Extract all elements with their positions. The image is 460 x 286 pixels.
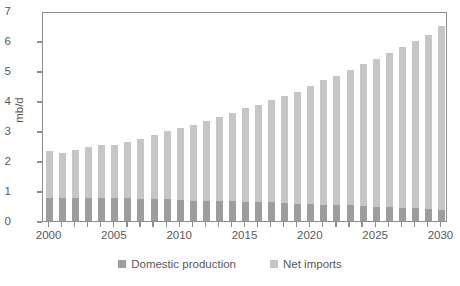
bar-segment-net-imports <box>203 121 210 201</box>
x-tick-mark <box>244 222 245 227</box>
bar-segment-domestic-production <box>333 205 340 221</box>
bar-segment-net-imports <box>320 80 327 204</box>
bar-segment-net-imports <box>59 153 66 197</box>
y-tick-label: 1 <box>0 186 11 198</box>
bar-segment-domestic-production <box>46 198 53 221</box>
x-tick-mark <box>113 222 114 227</box>
bar-segment-domestic-production <box>242 202 249 222</box>
bar-segment-net-imports <box>72 150 79 198</box>
bar-segment-net-imports <box>137 139 144 199</box>
legend-item: Net imports <box>270 258 342 270</box>
y-tick-label: 2 <box>0 156 11 168</box>
bar-segment-domestic-production <box>85 198 92 221</box>
bar-segment-net-imports <box>399 47 406 208</box>
x-tick-label: 2030 <box>418 230 460 242</box>
x-tick-mark <box>348 222 349 227</box>
x-tick-mark <box>179 222 180 227</box>
bar-segment-domestic-production <box>399 208 406 222</box>
x-tick-mark <box>427 222 428 227</box>
y-axis-title: mb/d <box>13 80 25 140</box>
x-tick-mark <box>218 222 219 227</box>
x-tick-mark <box>283 222 284 227</box>
x-tick-mark <box>335 222 336 227</box>
x-tick-mark <box>166 222 167 227</box>
x-tick-mark <box>126 222 127 227</box>
y-tick-label: 6 <box>0 36 11 48</box>
bar-segment-net-imports <box>46 151 53 197</box>
y-tick-label: 7 <box>0 6 11 18</box>
bar-segment-domestic-production <box>216 201 223 221</box>
x-tick-label: 2000 <box>27 230 71 242</box>
bar-segment-net-imports <box>438 26 445 210</box>
bar-segment-net-imports <box>216 117 223 201</box>
x-tick-mark <box>152 222 153 227</box>
x-tick-mark <box>401 222 402 227</box>
plot-area <box>42 12 447 222</box>
bar-segment-net-imports <box>307 86 314 204</box>
legend-swatch-icon <box>118 260 126 268</box>
legend-item: Domestic production <box>118 258 236 270</box>
bar-segment-net-imports <box>190 125 197 201</box>
bar-segment-domestic-production <box>190 201 197 221</box>
x-tick-label: 2020 <box>288 230 332 242</box>
bar-segment-domestic-production <box>360 206 367 221</box>
x-tick-mark <box>231 222 232 227</box>
legend-swatch-icon <box>270 260 278 268</box>
y-tick-label: 3 <box>0 126 11 138</box>
bar-segment-net-imports <box>98 145 105 198</box>
bar-segment-domestic-production <box>203 201 210 221</box>
x-tick-mark <box>139 222 140 227</box>
x-tick-mark <box>361 222 362 227</box>
x-tick-mark <box>440 222 441 227</box>
bar-segment-net-imports <box>333 76 340 205</box>
bar-segment-domestic-production <box>137 199 144 222</box>
bar-segment-net-imports <box>164 131 171 199</box>
x-tick-mark <box>205 222 206 227</box>
y-tick-label: 0 <box>0 216 11 228</box>
x-tick-mark <box>192 222 193 227</box>
x-tick-mark <box>87 222 88 227</box>
bar-segment-net-imports <box>360 64 367 207</box>
x-tick-mark <box>61 222 62 227</box>
x-tick-mark <box>414 222 415 227</box>
bar-segment-net-imports <box>412 41 419 208</box>
bar-segment-net-imports <box>255 105 262 203</box>
stacked-bar-chart: mb/d 01234567 20002005201020152020202520… <box>0 0 460 286</box>
x-tick-mark <box>388 222 389 227</box>
x-tick-mark <box>257 222 258 227</box>
bar-segment-domestic-production <box>229 201 236 221</box>
bar-segment-net-imports <box>124 142 131 198</box>
x-tick-mark <box>270 222 271 227</box>
bar-segment-net-imports <box>85 147 92 197</box>
bar-segment-net-imports <box>177 128 184 200</box>
bar-segment-domestic-production <box>347 205 354 221</box>
bar-segment-domestic-production <box>59 198 66 221</box>
x-tick-mark <box>309 222 310 227</box>
bar-segment-domestic-production <box>72 198 79 221</box>
bar-segment-domestic-production <box>307 204 314 221</box>
bar-segment-domestic-production <box>151 199 158 221</box>
x-tick-label: 2010 <box>157 230 201 242</box>
bar-segment-net-imports <box>425 35 432 209</box>
x-tick-label: 2025 <box>353 230 397 242</box>
bar-segment-domestic-production <box>294 204 301 221</box>
bar-segment-net-imports <box>386 53 393 207</box>
bar-segment-net-imports <box>268 100 275 202</box>
bar-segment-domestic-production <box>373 207 380 221</box>
bar-segment-domestic-production <box>425 209 432 221</box>
bar-segment-domestic-production <box>268 202 275 221</box>
x-tick-mark <box>48 222 49 227</box>
y-tick-label: 5 <box>0 66 11 78</box>
x-tick-mark <box>74 222 75 227</box>
bar-segment-domestic-production <box>164 199 171 221</box>
bar-segment-domestic-production <box>281 203 288 221</box>
chart-legend: Domestic productionNet imports <box>0 258 460 270</box>
bar-segment-net-imports <box>242 108 249 202</box>
legend-label: Net imports <box>283 258 342 270</box>
legend-label: Domestic production <box>131 258 236 270</box>
bar-segment-domestic-production <box>111 198 118 221</box>
bars-layer <box>43 13 446 221</box>
bar-segment-domestic-production <box>386 207 393 221</box>
y-tick-label: 4 <box>0 96 11 108</box>
bar-segment-domestic-production <box>412 208 419 221</box>
